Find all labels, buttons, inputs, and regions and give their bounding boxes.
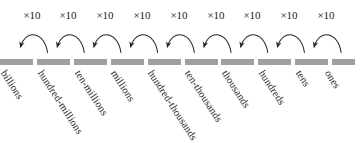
place-value-label: millions (109, 68, 137, 104)
place-value-label: tens (294, 68, 313, 89)
place-value-label: ten-thousands (183, 68, 225, 124)
place-value-label: thousands (220, 68, 253, 110)
place-value-label: ones (323, 68, 343, 90)
place-value-chart-diagram: ×10 ×10 ×10 ×10 ×10 ×10 ×10 ×10 ×10 (0, 0, 355, 143)
place-value-label: ten-millions (73, 68, 111, 118)
place-value-label-group: billions hundred-millions ten-millions m… (0, 0, 355, 143)
place-value-label: hundreds (257, 68, 288, 107)
place-value-label: billions (0, 68, 26, 101)
